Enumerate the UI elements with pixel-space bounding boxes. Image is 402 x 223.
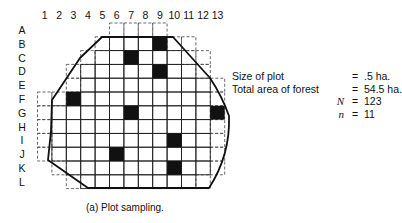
grid-cell	[182, 161, 196, 175]
equals-sign: =	[348, 108, 362, 121]
grid-cell	[66, 161, 80, 175]
partial-cell	[182, 51, 196, 65]
grid-cell	[182, 78, 196, 92]
grid-cell	[138, 92, 152, 106]
column-label: 9	[157, 9, 163, 21]
column-label: 12	[197, 9, 209, 21]
grid-cell	[124, 147, 138, 161]
grid-cell	[95, 64, 109, 78]
column-label: 3	[71, 9, 77, 21]
equals-sign: =	[348, 95, 362, 108]
figure-caption: (a) Plot sampling.	[86, 202, 164, 213]
column-label: 4	[85, 9, 91, 21]
partial-cell	[196, 175, 210, 189]
sampled-plot	[66, 92, 80, 106]
column-label: 10	[168, 9, 180, 21]
grid-cell	[52, 106, 66, 120]
row-label: G	[18, 107, 26, 119]
stat-label: N	[232, 95, 348, 108]
grid-cell	[81, 64, 95, 78]
row-label: F	[19, 93, 25, 105]
grid-cell	[124, 78, 138, 92]
sampled-plots	[38, 37, 225, 189]
column-label: 2	[56, 9, 62, 21]
partial-cell	[66, 78, 80, 92]
stat-value: .5 ha.	[362, 70, 390, 83]
grid-cell	[153, 133, 167, 147]
grid-cell	[110, 161, 124, 175]
grid-cell	[167, 64, 181, 78]
grid-cell	[182, 175, 196, 189]
grid-cell	[196, 106, 210, 120]
partial-cell	[124, 23, 138, 37]
grid-cell	[153, 92, 167, 106]
grid-cell	[81, 120, 95, 134]
grid-cell	[138, 133, 152, 147]
grid-cell	[110, 92, 124, 106]
row-label: D	[18, 65, 26, 77]
column-label: 1	[42, 9, 48, 21]
grid-cell	[81, 147, 95, 161]
row-label: E	[18, 79, 25, 91]
grid-cell	[124, 37, 138, 51]
row-label: A	[18, 24, 25, 36]
partial-cell	[95, 37, 109, 51]
row-label: J	[19, 148, 24, 160]
grid-cell	[124, 161, 138, 175]
sampled-plot	[38, 120, 52, 134]
grid-cell	[138, 51, 152, 65]
grid-cell	[95, 147, 109, 161]
grid-cell	[167, 175, 181, 189]
partial-cell	[210, 133, 224, 147]
grid-cell	[167, 106, 181, 120]
grid-cell	[110, 120, 124, 134]
row-labels: ABCDEFGHIJKL	[18, 24, 26, 188]
column-label: 7	[128, 9, 134, 21]
grid-cell	[52, 120, 66, 134]
grid-cell	[167, 51, 181, 65]
grid-cell	[153, 161, 167, 175]
sampled-plot	[124, 51, 138, 65]
grid-cell	[95, 120, 109, 134]
grid-cell	[182, 120, 196, 134]
grid-cell	[138, 147, 152, 161]
grid-cell	[196, 133, 210, 147]
row-label: B	[18, 38, 25, 50]
grid-cell	[124, 120, 138, 134]
grid-cell	[153, 175, 167, 189]
stats-panel: Size of plot = .5 ha. Total area of fore…	[232, 70, 402, 120]
grid-cell	[182, 147, 196, 161]
grid-cell	[66, 147, 80, 161]
grid-cell	[167, 92, 181, 106]
partial-cell	[38, 92, 52, 106]
row-label: C	[18, 52, 26, 64]
column-label: 6	[114, 9, 120, 21]
grid-cell	[95, 51, 109, 65]
grid-cell	[153, 106, 167, 120]
equals-sign: =	[348, 83, 362, 96]
stat-plot-size: Size of plot = .5 ha.	[232, 70, 402, 83]
grid-cell	[81, 133, 95, 147]
row-label: H	[18, 121, 26, 133]
grid-cell	[52, 147, 66, 161]
column-label: 11	[183, 9, 194, 21]
sampled-plot	[153, 64, 167, 78]
grid-cell	[138, 175, 152, 189]
sampled-plot	[52, 175, 66, 189]
equals-sign: =	[348, 70, 362, 83]
grid-cell	[153, 78, 167, 92]
grid-cell	[95, 161, 109, 175]
grid-cell	[138, 78, 152, 92]
grid-cell	[196, 78, 210, 92]
sampled-plot	[167, 161, 181, 175]
grid-cell	[110, 78, 124, 92]
stat-total-area: Total area of forest = 54.5 ha.	[232, 83, 402, 96]
grid-cell	[81, 161, 95, 175]
grid-cell	[138, 106, 152, 120]
grid-cell	[167, 78, 181, 92]
sampled-plot	[124, 106, 138, 120]
partial-cell	[81, 51, 95, 65]
grid-cell	[138, 64, 152, 78]
row-label: I	[21, 134, 24, 146]
grid-cell	[95, 106, 109, 120]
